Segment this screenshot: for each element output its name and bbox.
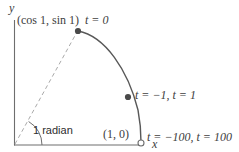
parametric-curve — [78, 31, 141, 142]
point-marker-t1 — [125, 94, 131, 100]
point-marker-t100-open — [138, 140, 144, 146]
point-label-one-zero: (1, 0) — [103, 128, 129, 140]
point-marker-t0 — [75, 28, 81, 34]
point-label-t-pm1: t = −1, t = 1 — [135, 89, 196, 101]
parametric-curve-figure: y x (cos 1, sin 1) t = 0 t = −1, t = 1 (… — [0, 0, 239, 152]
point-label-t-pm100: t = −100, t = 100 — [147, 131, 232, 143]
angle-label-one-radian: 1 radian — [33, 125, 73, 136]
point-label-cos-sin: (cos 1, sin 1) — [17, 14, 79, 26]
point-label-t0: t = 0 — [85, 14, 108, 26]
y-axis-label: y — [9, 2, 14, 14]
